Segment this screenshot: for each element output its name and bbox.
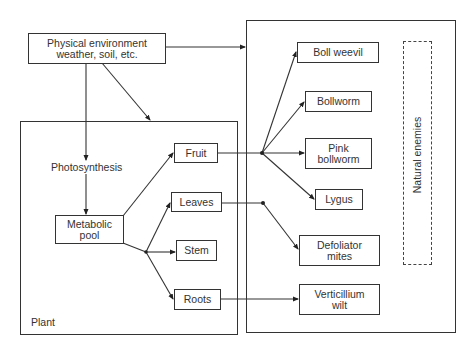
verticillium-wilt-line2: wilt — [332, 300, 347, 311]
stem-box: Stem — [176, 240, 217, 261]
photosynthesis-label: Photosynthesis — [51, 161, 122, 173]
physical-environment-box: Physical environment weather, soil, etc. — [28, 33, 166, 64]
lygus-box: Lygus — [315, 189, 363, 210]
environment-line1: Physical environment — [47, 38, 147, 49]
metabolic-pool-box: Metabolic pool — [55, 215, 124, 244]
bollworm-box: Bollworm — [305, 91, 372, 112]
defoliator-mites-line2: mites — [327, 251, 352, 262]
plant-label: Plant — [31, 316, 55, 328]
defoliator-mites-line1: Defoliator — [317, 240, 362, 251]
pink-bollworm-line2: bollworm — [317, 154, 359, 165]
verticillium-wilt-line1: Verticillium — [314, 289, 364, 300]
metabolic-pool-line1: Metabolic — [67, 219, 112, 230]
boll-weevil-box: Boll weevil — [297, 42, 379, 63]
metabolic-pool-line2: pool — [80, 230, 100, 241]
environment-line2: weather, soil, etc. — [56, 49, 137, 60]
roots-box: Roots — [174, 289, 221, 310]
verticillium-wilt-box: Verticillium wilt — [299, 284, 380, 315]
natural-enemies-label: Natural enemies — [410, 105, 424, 205]
fruit-box: Fruit — [174, 143, 218, 163]
defoliator-mites-box: Defoliator mites — [299, 235, 380, 266]
pink-bollworm-line1: Pink — [328, 143, 348, 154]
pink-bollworm-box: Pink bollworm — [305, 138, 372, 169]
leaves-box: Leaves — [171, 192, 222, 212]
